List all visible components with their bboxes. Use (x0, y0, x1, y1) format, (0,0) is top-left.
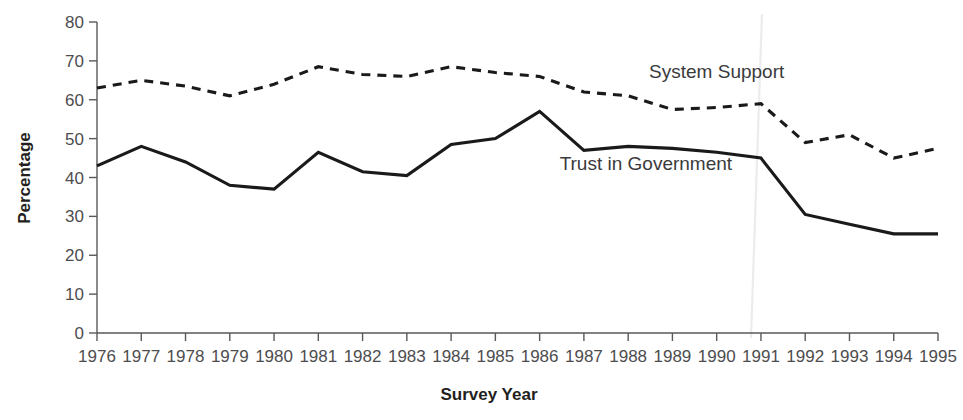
y-tick-label: 80 (65, 13, 84, 32)
x-tick-label: 1993 (831, 347, 869, 366)
x-tick-label: 1992 (786, 347, 824, 366)
x-tick-label: 1990 (698, 347, 736, 366)
y-tick-label: 10 (65, 285, 84, 304)
x-tick-label: 1982 (344, 347, 382, 366)
series-label-trust-in-government: Trust in Government (560, 153, 733, 174)
chart-figure: 01020304050607080 1976197719781979198019… (0, 0, 963, 420)
y-tick-label: 0 (75, 324, 84, 343)
x-tick-label: 1981 (299, 347, 337, 366)
y-tick-label: 70 (65, 52, 84, 71)
x-tick-label: 1994 (875, 347, 913, 366)
x-tick-label: 1991 (742, 347, 780, 366)
y-tick-label: 30 (65, 207, 84, 226)
y-axis-title: Percentage (15, 132, 34, 224)
x-tick-label: 1976 (78, 347, 116, 366)
x-tick-label: 1989 (654, 347, 692, 366)
x-tick-label: 1986 (521, 347, 559, 366)
x-tick-label: 1979 (211, 347, 249, 366)
x-tick-label: 1983 (388, 347, 426, 366)
x-tick-label: 1984 (432, 347, 470, 366)
x-tick-label: 1988 (609, 347, 647, 366)
x-tick-label: 1995 (919, 347, 957, 366)
line-chart: 01020304050607080 1976197719781979198019… (0, 0, 963, 420)
y-tick-label: 60 (65, 91, 84, 110)
x-tick-label: 1977 (122, 347, 160, 366)
x-axis-title: Survey Year (440, 385, 537, 404)
y-tick-label: 50 (65, 130, 84, 149)
y-tick-label: 40 (65, 169, 84, 188)
x-tick-label: 1985 (476, 347, 514, 366)
x-tick-label: 1980 (255, 347, 293, 366)
x-tick-label: 1987 (565, 347, 603, 366)
series-label-system-support: System Support (649, 61, 785, 82)
x-tick-label: 1978 (167, 347, 205, 366)
y-tick-label: 20 (65, 246, 84, 265)
